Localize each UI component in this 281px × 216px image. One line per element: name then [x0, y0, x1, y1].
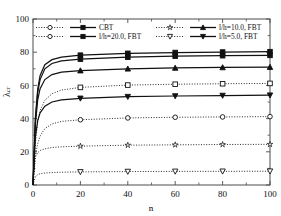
series-marker: [126, 116, 131, 121]
y-tick-label: 100: [16, 14, 30, 24]
legend-label: l/h=10.0, FBT: [219, 23, 262, 32]
x-tick-label: 100: [263, 189, 277, 199]
series-marker: [220, 169, 225, 174]
data-curves: [33, 49, 273, 185]
x-tick-label: 0: [31, 189, 36, 199]
x-tick-label: 20: [76, 189, 86, 199]
y-tick-label: 20: [20, 147, 30, 157]
legend-label: CBT: [99, 23, 114, 32]
series-marker: [173, 115, 178, 120]
axis-tick-labels: 020406080100020406080100: [16, 14, 278, 199]
plot-frame: [33, 19, 270, 185]
x-tick-label: 60: [171, 189, 181, 199]
series-marker: [173, 54, 178, 59]
series-marker: [126, 55, 131, 60]
x-axis-title: n: [149, 203, 154, 213]
legend: CBTl/h=20.0, FBTl/h=10.0, FBTl/h=5.0, FB…: [36, 23, 262, 41]
legend-label: l/h=20.0, FBT: [99, 32, 142, 41]
series-marker: [78, 143, 84, 148]
series-marker: [268, 53, 273, 58]
y-tick-label: 80: [20, 47, 30, 57]
series-marker: [220, 53, 225, 58]
legend-entry: l/h=10.0, FBT: [156, 23, 262, 32]
series-marker: [173, 82, 178, 87]
chart-plot: 020406080100020406080100 CBTl/h=20.0, FB…: [0, 0, 281, 216]
series-marker: [220, 115, 225, 120]
legend-entry: CBT: [36, 23, 114, 32]
series-marker: [268, 114, 273, 119]
series-line: [33, 83, 270, 185]
series-marker: [268, 81, 273, 86]
legend-label: l/h=5.0, FBT: [219, 32, 258, 41]
series-line: [33, 117, 270, 185]
legend-entry: l/h=20.0, FBT: [36, 32, 142, 41]
axis-ticks: [33, 19, 270, 185]
x-tick-label: 40: [123, 189, 133, 199]
series-line: [33, 144, 270, 185]
series-marker: [78, 57, 83, 62]
series-marker: [78, 85, 83, 90]
series-marker: [220, 142, 226, 147]
series-marker: [126, 83, 131, 88]
y-tick-label: 40: [20, 114, 30, 124]
series-marker: [125, 169, 130, 174]
x-tick-label: 80: [218, 189, 228, 199]
series-marker: [78, 117, 83, 122]
y-tick-label: 60: [20, 81, 30, 91]
series-line: [33, 67, 270, 185]
legend-entry: l/h=5.0, FBT: [156, 32, 258, 41]
series-marker: [220, 81, 225, 86]
series-marker: [125, 142, 131, 147]
y-tick-label: 0: [25, 180, 30, 190]
series-line: [33, 55, 270, 185]
figure-container: λcr 020406080100020406080100 CBTl/h=20.0…: [0, 0, 281, 216]
series-marker: [172, 142, 178, 147]
